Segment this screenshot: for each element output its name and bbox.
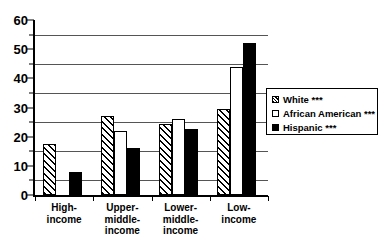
y-axis-minor-tick-mark xyxy=(29,63,34,64)
legend-swatch-icon xyxy=(272,96,279,103)
bar-african-american xyxy=(172,119,185,195)
y-axis-tick-label: 10 xyxy=(2,159,28,172)
bar-hispanic xyxy=(69,172,82,195)
bar-hispanic xyxy=(185,129,198,195)
x-axis-tick-mark xyxy=(268,196,269,201)
legend-item-african-american: African American *** xyxy=(272,107,373,120)
y-axis-tick-label: 40 xyxy=(2,72,28,85)
legend-label: Hispanic *** xyxy=(283,123,336,133)
legend-swatch-icon xyxy=(272,124,279,131)
bar-african-american xyxy=(114,131,127,195)
bar-african-american xyxy=(230,67,243,195)
x-axis-category-label: High- income xyxy=(35,202,93,225)
bar-chart: 0102030405060 High- incomeUpper- middle-… xyxy=(0,0,388,247)
x-axis-tick-mark xyxy=(35,196,36,201)
plot-area xyxy=(35,20,268,195)
x-axis-line xyxy=(33,195,268,197)
y-axis-tick-mark xyxy=(27,49,34,50)
bar-white xyxy=(43,144,56,195)
bar-white xyxy=(159,124,172,195)
x-axis-category-label: Upper- middle- income xyxy=(93,202,151,237)
bar-hispanic xyxy=(243,43,256,195)
legend-item-white: White *** xyxy=(272,93,373,106)
bar-white xyxy=(101,116,114,195)
y-axis-tick-label: 20 xyxy=(2,130,28,143)
y-axis-tick-mark xyxy=(27,20,34,21)
x-axis-category-label: Lower- middle- income xyxy=(152,202,210,237)
y-axis-minor-tick-mark xyxy=(29,122,34,123)
bar-group xyxy=(93,20,151,195)
legend-label: African American *** xyxy=(283,109,375,119)
y-axis-tick-mark xyxy=(27,107,34,108)
x-axis-tick-mark xyxy=(152,196,153,201)
bar-group xyxy=(210,20,268,195)
legend-item-hispanic: Hispanic *** xyxy=(272,121,373,134)
y-axis-tick-mark xyxy=(27,165,34,166)
bar-group xyxy=(152,20,210,195)
legend-swatch-icon xyxy=(272,110,279,117)
x-axis-category-label: Low- income xyxy=(210,202,268,225)
y-axis-minor-tick-mark xyxy=(29,180,34,181)
bar-group xyxy=(35,20,93,195)
x-axis-tick-mark xyxy=(210,196,211,201)
y-axis-tick-mark xyxy=(27,195,34,196)
y-axis-tick-label: 50 xyxy=(2,43,28,56)
y-axis-minor-tick-mark xyxy=(29,151,34,152)
y-axis-tick-label: 30 xyxy=(2,101,28,114)
y-axis-tick-labels: 0102030405060 xyxy=(2,0,28,247)
y-axis-tick-mark xyxy=(27,78,34,79)
bar-hispanic xyxy=(127,148,140,195)
y-axis-tick-label: 60 xyxy=(2,14,28,27)
y-axis-tick-label: 0 xyxy=(2,189,28,202)
bar-white xyxy=(217,109,230,195)
x-axis-tick-mark xyxy=(93,196,94,201)
y-axis-tick-mark xyxy=(27,136,34,137)
y-axis-minor-tick-mark xyxy=(29,92,34,93)
y-axis-minor-tick-mark xyxy=(29,34,34,35)
legend-label: White *** xyxy=(283,95,323,105)
chart-legend: White ***African American ***Hispanic **… xyxy=(266,88,378,135)
